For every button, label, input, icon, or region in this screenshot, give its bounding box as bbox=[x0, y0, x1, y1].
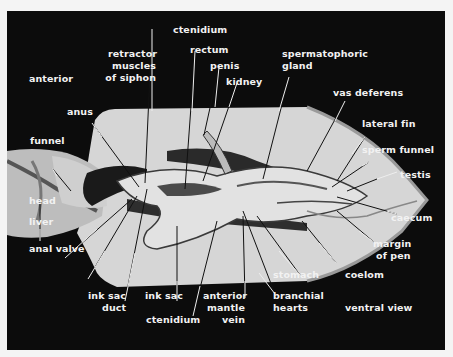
label-anterior-mantle-vein-line1: anterior bbox=[203, 290, 245, 302]
label-stomach: stomach bbox=[273, 269, 319, 281]
label-retractor-muscles-line2: muscles bbox=[108, 60, 156, 72]
label-anal-valve: anal valve bbox=[29, 243, 85, 255]
dissection-figure: ctenidium retractor muscles of siphon re… bbox=[7, 11, 445, 350]
label-ventral-view: ventral view bbox=[345, 302, 412, 314]
label-kidney: kidney bbox=[226, 76, 262, 88]
label-ink-sac: ink sac bbox=[145, 290, 183, 302]
label-penis: penis bbox=[210, 60, 239, 72]
label-rectum: rectum bbox=[190, 44, 229, 56]
label-ink-sac-duct-line2: duct bbox=[102, 302, 126, 314]
label-margin-of-pen-line2: of pen bbox=[376, 250, 411, 262]
label-margin-of-pen-line1: margin bbox=[373, 238, 411, 250]
label-testis: testis bbox=[400, 169, 431, 181]
label-ctenidium-bottom: ctenidium bbox=[146, 314, 200, 326]
label-caecum: caecum bbox=[391, 212, 432, 224]
label-liver: liver bbox=[29, 216, 53, 228]
label-anterior-mantle-vein-line2: mantle bbox=[203, 302, 245, 314]
label-retractor-muscles-line3: of siphon bbox=[102, 72, 156, 84]
label-branchial-hearts-line2: hearts bbox=[273, 302, 308, 314]
label-retractor-muscles-line1: retractor bbox=[108, 48, 156, 60]
label-vas-deferens: vas deferens bbox=[333, 87, 403, 99]
label-head: head bbox=[29, 195, 56, 207]
label-sperm-funnel: sperm funnel bbox=[362, 144, 434, 156]
label-lateral-fin: lateral fin bbox=[362, 118, 416, 130]
label-spermatophoric-line1: spermatophoric bbox=[282, 48, 368, 60]
label-anterior-mantle-vein-line3: vein bbox=[203, 314, 245, 326]
label-ink-sac-duct-line1: ink sac bbox=[88, 290, 126, 302]
label-anterior: anterior bbox=[29, 73, 73, 85]
label-anus: anus bbox=[67, 106, 93, 118]
label-coelom: coelom bbox=[345, 269, 384, 281]
label-spermatophoric-line2: gland bbox=[282, 60, 313, 72]
label-ctenidium-top: ctenidium bbox=[173, 24, 227, 36]
label-branchial-hearts-line1: branchial bbox=[273, 290, 324, 302]
label-funnel: funnel bbox=[30, 135, 65, 147]
